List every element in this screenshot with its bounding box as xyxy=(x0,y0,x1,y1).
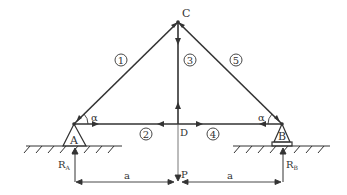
svg-text:1: 1 xyxy=(118,55,124,66)
dimension-label-left: a xyxy=(124,170,130,181)
arrow-icon xyxy=(196,121,203,127)
truss-diagram: α α A B RA RB xyxy=(0,0,347,195)
node-label-a: A xyxy=(69,134,79,147)
arrow-up-icon xyxy=(72,148,78,154)
node-label-b: B xyxy=(278,130,286,143)
member-1 xyxy=(74,22,178,124)
angle-label-right: α xyxy=(258,112,265,123)
arrow-icon xyxy=(175,102,181,109)
arrow-icon xyxy=(157,121,164,127)
member-number-5: 5 xyxy=(230,54,242,66)
svg-text:4: 4 xyxy=(210,129,216,140)
svg-text:5: 5 xyxy=(233,55,239,66)
angle-label-left: α xyxy=(91,112,98,123)
dimension-line xyxy=(76,175,281,185)
arrow-icon xyxy=(175,38,181,45)
svg-text:3: 3 xyxy=(187,55,193,66)
angle-arc-left xyxy=(84,114,88,124)
reaction-label-ra: RA xyxy=(58,159,71,171)
member-number-2: 2 xyxy=(140,128,152,140)
angle-arc-right xyxy=(268,114,272,124)
node-label-c: C xyxy=(182,7,190,20)
node-label-d: D xyxy=(180,127,188,138)
dimension-label-right: a xyxy=(227,170,233,181)
reaction-label-rb: RB xyxy=(286,159,299,171)
member-5 xyxy=(178,22,282,124)
load-label-p: P xyxy=(181,169,188,180)
svg-text:2: 2 xyxy=(143,129,149,140)
member-number-1: 1 xyxy=(115,54,127,66)
member-number-3: 3 xyxy=(184,54,196,66)
member-number-4: 4 xyxy=(207,128,219,140)
